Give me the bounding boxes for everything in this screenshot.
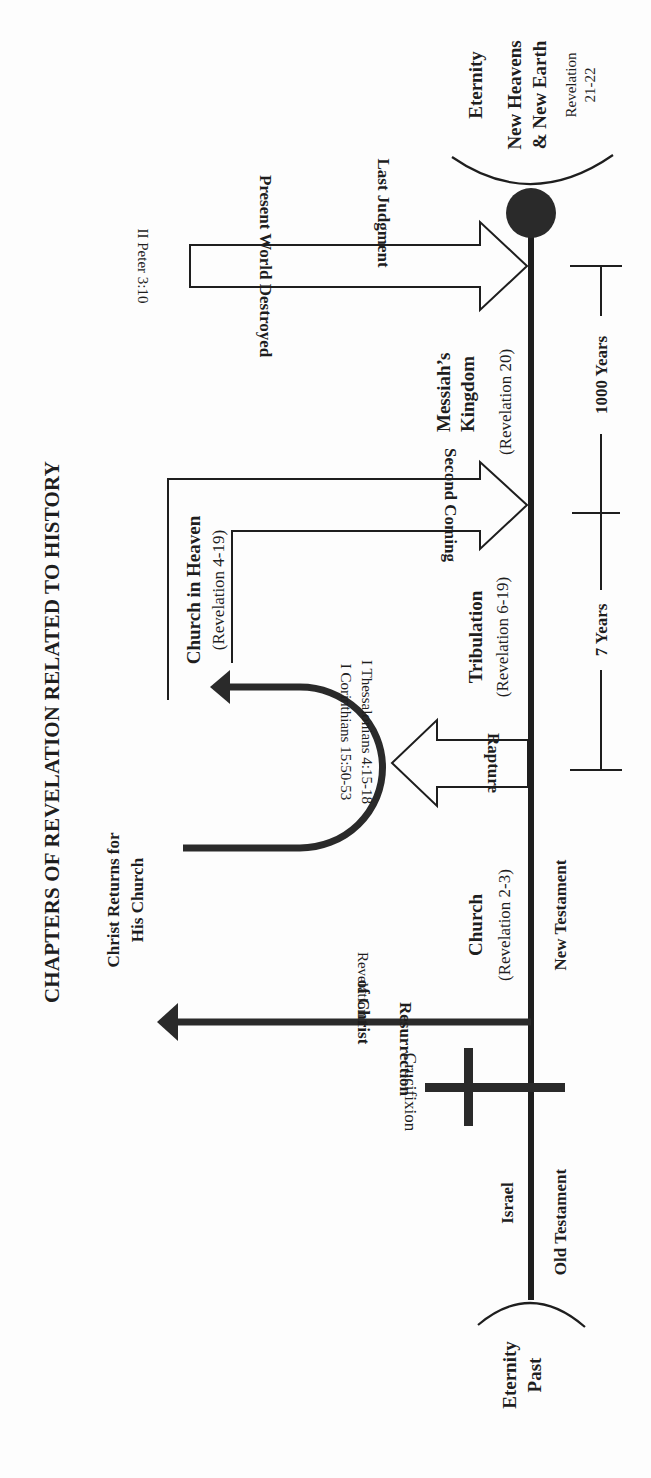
resurrection-ref: Revelation 1	[355, 952, 371, 1028]
new-heavens-label-line1: New Heavens	[504, 40, 525, 149]
last-judgment-circle	[506, 188, 556, 238]
present-world-destroyed-arrow	[190, 222, 527, 310]
new-heavens-label-line2: & New Earth	[529, 40, 550, 149]
eternity-arc	[452, 155, 613, 184]
diagram-title: CHAPTERS OF REVELATION RELATED TO HISTOR…	[40, 461, 64, 1003]
church-in-heaven-label: Church in Heaven	[183, 515, 204, 664]
christ-returns-label-line1: Christ Returns for	[104, 832, 123, 967]
crucifixion-cross-icon	[425, 1048, 565, 1126]
eternity-past-label-line1: Eternity	[499, 1341, 520, 1409]
second-coming-label: Second Coming	[441, 448, 460, 562]
tribulation-duration-label: 7 Years	[592, 603, 611, 656]
church-ref: (Revelation 2-3)	[495, 869, 514, 981]
messiahs-kingdom-label-line1: Messiah’s	[433, 352, 454, 432]
tribulation-ref: (Revelation 6-19)	[493, 577, 512, 697]
last-judgment-label: Last Judgment	[374, 158, 393, 267]
rapture-label: Rapture	[484, 733, 503, 794]
rapture-ref-corinthians: I Corinthians 15:50-53	[338, 664, 354, 801]
rapture-arrow	[392, 720, 528, 806]
eternity-past-label-line2: Past	[524, 1357, 545, 1393]
eternity-label: Eternity	[465, 51, 486, 119]
old-testament-label: Old Testament	[551, 1169, 570, 1276]
new-heavens-ref-line2: 21-22	[582, 68, 598, 103]
messiahs-kingdom-label-line2: Kingdom	[457, 356, 478, 432]
present-world-destroyed-label: Present World Destroyed	[256, 175, 275, 358]
resurrection-label-line1: Resurrection	[396, 1002, 415, 1097]
resurrection-arrow	[157, 1003, 531, 1041]
church-label: Church	[465, 894, 486, 956]
messiahs-kingdom-ref: (Revelation 20)	[496, 349, 515, 455]
tribulation-label: Tribulation	[465, 590, 486, 683]
israel-label: Israel	[498, 1182, 517, 1224]
eternity-past-arc	[478, 1303, 585, 1327]
new-heavens-ref-line1: Revelation	[563, 52, 579, 117]
church-in-heaven-ref: (Revelation 4-19)	[209, 530, 228, 650]
kingdom-duration-label: 1000 Years	[592, 336, 611, 415]
new-testament-label: New Testament	[551, 859, 570, 970]
christ-returns-label-line2: His Church	[128, 857, 147, 942]
rapture-ref-thessalonians: I Thessalonians 4:15-18	[359, 660, 375, 804]
revelation-timeline-diagram: CHAPTERS OF REVELATION RELATED TO HISTOR…	[0, 0, 651, 1478]
present-world-ref: II Peter 3:10	[135, 229, 151, 304]
